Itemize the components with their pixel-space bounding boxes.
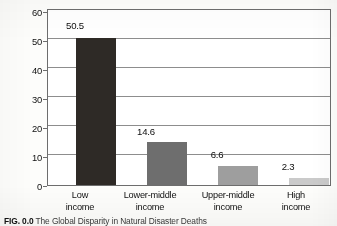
x-label-lower-middle-income-line-2: income xyxy=(110,202,190,214)
y-axis-title-line-1: Average annual number of xyxy=(0,0,10,14)
bar-value-low-income: 50.5 xyxy=(55,20,95,31)
x-label-low-income: Low income xyxy=(50,190,110,213)
bar-upper-middle-income xyxy=(218,166,258,185)
x-label-upper-middle-income-line-1: Upper-middle xyxy=(188,190,268,202)
y-tick-label-50: 50 xyxy=(20,36,42,47)
y-tick-label-60: 60 xyxy=(20,7,42,18)
y-tick-label-10: 10 xyxy=(20,152,42,163)
x-label-high-income: High income xyxy=(266,190,326,213)
bar-value-upper-middle-income: 6.6 xyxy=(197,149,237,160)
x-label-lower-middle-income-line-1: Lower-middle xyxy=(110,190,190,202)
figure-caption-text: The Global Disparity in Natural Disaster… xyxy=(36,216,207,226)
x-label-low-income-line-1: Low xyxy=(50,190,110,202)
plot-area xyxy=(47,9,331,186)
y-tick-label-40: 40 xyxy=(20,65,42,76)
figure-number: FIG. 0.0 xyxy=(4,216,33,226)
x-label-upper-middle-income-line-2: income xyxy=(188,202,268,214)
bar-high-income xyxy=(289,178,329,185)
x-label-high-income-line-2: income xyxy=(266,202,326,214)
y-tick-mark-0 xyxy=(43,186,47,187)
x-label-lower-middle-income: Lower-middle income xyxy=(110,190,190,213)
figure-container: Average annual number of deaths per mill… xyxy=(0,0,337,226)
bar-value-lower-middle-income: 14.6 xyxy=(126,126,166,137)
bar-value-high-income: 2.3 xyxy=(268,161,308,172)
y-tick-label-20: 20 xyxy=(20,123,42,134)
y-tick-label-30: 30 xyxy=(20,94,42,105)
x-label-low-income-line-2: income xyxy=(50,202,110,214)
y-tick-label-0: 0 xyxy=(20,181,42,192)
bar-lower-middle-income xyxy=(147,142,187,185)
bar-low-income xyxy=(76,38,116,185)
figure-caption: FIG. 0.0 The Global Disparity in Natural… xyxy=(4,216,334,226)
x-label-upper-middle-income: Upper-middle income xyxy=(188,190,268,213)
x-label-high-income-line-1: High xyxy=(266,190,326,202)
